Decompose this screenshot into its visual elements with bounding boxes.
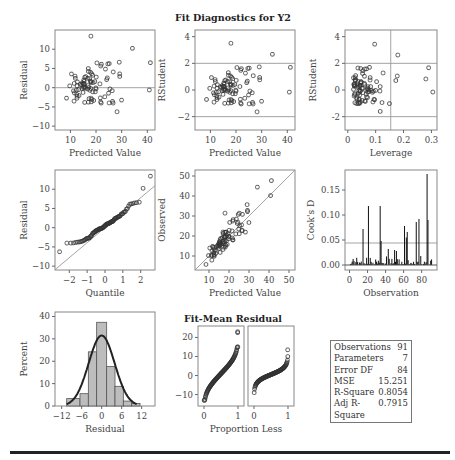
y-tick-label: −10: [32, 121, 50, 131]
y-tick-label: 10: [39, 379, 50, 389]
data-point: [149, 61, 153, 65]
data-point: [94, 75, 98, 79]
data-point: [208, 87, 212, 91]
plot-residual-histogram: 010203040−12−60612ResidualPercent: [19, 311, 155, 434]
data-point: [289, 66, 293, 70]
stat-row-parameters: Parameters7: [334, 353, 408, 364]
data-point: [223, 211, 227, 215]
y-tick-label: 30: [179, 211, 190, 221]
x-tick-label: 20: [224, 275, 235, 285]
y-tick-label: 0.15: [321, 185, 340, 195]
data-point: [258, 78, 262, 82]
x-axis-label: Predicted Value: [69, 148, 141, 158]
fit-diagnostics-panel: Fit Diagnostics for Y2 Fit-Mean Residual…: [0, 0, 455, 460]
x-tick-label: 1: [120, 275, 125, 285]
x-tick-label: 0.1: [369, 135, 383, 145]
data-point: [65, 241, 69, 245]
x-tick-label: 1: [285, 411, 290, 421]
histogram-bar: [123, 401, 131, 406]
y-tick-label: 10: [179, 251, 190, 261]
x-tick-label: −6: [75, 411, 88, 421]
data-point: [395, 74, 399, 78]
y-tick-label: 20: [39, 356, 50, 366]
y-axis-label: Observed: [157, 198, 167, 242]
data-point: [148, 88, 152, 92]
data-point: [229, 41, 233, 45]
x-axis-label: Residual: [85, 424, 125, 434]
y-tick-label: 2: [185, 58, 190, 68]
data-point: [131, 47, 135, 51]
stat-row-error-df: Error DF84: [334, 365, 408, 376]
plot-frame: [55, 170, 155, 270]
x-tick-label: 0: [99, 411, 104, 421]
data-point: [72, 99, 76, 103]
y-tick-label: −10: [175, 390, 193, 400]
data-point: [212, 100, 216, 104]
data-point: [238, 85, 242, 89]
x-axis-label: Proportion Less: [210, 424, 283, 434]
plot-qq-plot: −10−50510−2−1012QuantileResidual: [19, 170, 155, 298]
x-tick-label: 20: [362, 275, 373, 285]
plot-frame: [345, 170, 437, 270]
x-tick-label: 20: [231, 135, 242, 145]
x-tick-label: 1: [235, 411, 240, 421]
data-point: [378, 110, 382, 114]
data-point: [378, 89, 382, 93]
y-tick-label: 5: [45, 203, 50, 213]
fit-mean-title: Fit-Mean Residual: [184, 313, 282, 324]
x-tick-label: −2: [63, 275, 76, 285]
x-tick-label: −12: [53, 411, 71, 421]
stat-row-adj-r-square: Adj R-Square0.7915: [334, 398, 408, 421]
x-tick-label: −1: [81, 275, 94, 285]
y-tick-label: 0.00: [321, 260, 340, 270]
y-axis-label: Residual: [19, 60, 29, 100]
y-tick-label: 4: [335, 32, 340, 42]
stat-row-r-square: R-Square0.8054: [334, 387, 408, 398]
data-point: [256, 185, 260, 189]
stat-row-mse: MSE15.251: [334, 376, 408, 387]
data-point: [221, 248, 225, 252]
x-tick-label: 60: [398, 275, 409, 285]
data-point: [251, 74, 255, 78]
y-axis-label: RStudent: [308, 58, 318, 101]
x-tick-label: 6: [119, 411, 124, 421]
x-axis-label: Quantile: [85, 288, 124, 298]
y-tick-label: 0.05: [321, 235, 340, 245]
x-tick-label: 2: [138, 275, 143, 285]
x-tick-label: 0: [201, 411, 206, 421]
y-axis-label: RStudent: [157, 58, 167, 101]
data-point: [270, 179, 274, 183]
y-tick-label: 40: [39, 311, 50, 321]
y-tick-label: 10: [39, 184, 50, 194]
y-tick-label: 2: [335, 58, 340, 68]
data-point: [107, 91, 111, 95]
data-point: [427, 66, 431, 70]
data-point: [394, 79, 398, 83]
y-tick-label: 10: [182, 351, 193, 361]
y-tick-label: 40: [179, 191, 190, 201]
data-point: [381, 71, 385, 75]
x-tick-label: 50: [284, 275, 295, 285]
x-tick-label: 0: [102, 275, 107, 285]
data-point: [286, 348, 290, 352]
x-tick-label: 80: [416, 275, 427, 285]
plot-observed-vs-predicted: 10203040501020304050Predicted ValueObser…: [157, 170, 295, 298]
x-tick-label: 40: [380, 275, 391, 285]
y-axis-label: Percent: [19, 341, 29, 376]
data-point: [252, 391, 256, 395]
data-point: [99, 96, 103, 100]
x-tick-label: 10: [204, 275, 215, 285]
plot-residual-vs-predicted: −10−5051010203040Predicted ValueResidual: [19, 30, 155, 158]
stat-value: 15.251: [378, 376, 408, 387]
fit-statistics-table: Observations91 Parameters7 Error DF84 MS…: [330, 340, 412, 423]
x-tick-label: 30: [244, 275, 255, 285]
data-point: [89, 34, 93, 38]
plot-rstudent-vs-predicted: −202410203040Predicted ValueRStudent: [157, 30, 295, 158]
data-point: [103, 95, 107, 99]
data-point: [247, 93, 251, 97]
y-tick-label: 20: [179, 231, 190, 241]
x-tick-label: 0: [345, 135, 350, 145]
data-point: [244, 71, 248, 75]
data-point: [375, 80, 379, 84]
y-axis-label: Cook's D: [306, 200, 316, 240]
